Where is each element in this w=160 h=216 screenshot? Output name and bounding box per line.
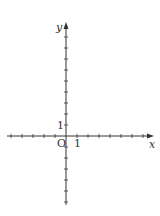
coordinate-plane: x y O 1 1 — [0, 0, 160, 216]
y-axis-label: y — [55, 21, 63, 34]
x-unit-label: 1 — [74, 137, 81, 150]
x-axis-label: x — [149, 138, 156, 151]
y-axis-arrow-icon — [64, 22, 69, 29]
axis-ticks — [11, 37, 143, 202]
origin-label: O — [57, 137, 66, 150]
y-unit-label: 1 — [57, 119, 64, 132]
